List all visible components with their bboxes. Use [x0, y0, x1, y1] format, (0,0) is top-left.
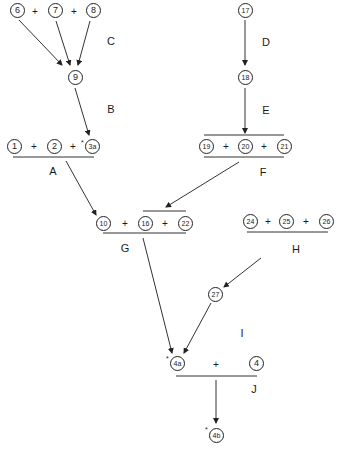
compound-21: 21	[277, 139, 292, 154]
compound-8: 8	[86, 3, 101, 18]
arrow-H-to-27	[224, 258, 261, 287]
compound-25: 25	[279, 214, 294, 229]
compound-26: 26	[319, 214, 334, 229]
compound-9: 9	[68, 70, 83, 85]
plus-sign: +	[265, 217, 271, 227]
step-label-B: B	[107, 104, 114, 115]
arrow-G-to-4a	[143, 238, 172, 353]
arrow-7-to-9	[56, 21, 70, 65]
plus-sign: +	[32, 7, 38, 17]
plus-sign: +	[70, 142, 76, 152]
compound-19: 19	[199, 139, 214, 154]
compound-16: 16	[138, 216, 153, 231]
compound-4a: 4a	[170, 356, 185, 371]
step-label-A: A	[49, 166, 56, 177]
compound-7: 7	[48, 3, 63, 18]
step-label-I: I	[240, 328, 243, 339]
arrow-8-to-9	[78, 21, 90, 65]
star-mark: *	[166, 355, 169, 362]
plus-sign: +	[261, 142, 267, 152]
compound-1: 1	[7, 139, 22, 154]
step-label-D: D	[262, 37, 270, 48]
arrow-A-to-10	[66, 161, 96, 215]
step-label-F: F	[260, 167, 267, 178]
plus-sign: +	[31, 142, 37, 152]
compound-18: 18	[238, 70, 253, 85]
arrow-27-to-4a	[184, 303, 211, 353]
compound-2: 2	[47, 139, 62, 154]
plus-sign: +	[162, 219, 168, 229]
compound-20: 20	[238, 139, 253, 154]
compound-3a: 3a	[85, 139, 100, 154]
compound-6: 6	[10, 3, 25, 18]
arrow-9-to-3a	[75, 88, 89, 135]
step-label-J: J	[251, 384, 257, 395]
star-mark: *	[81, 139, 84, 146]
step-label-H: H	[292, 244, 300, 255]
plus-sign: +	[303, 217, 309, 227]
step-label-E: E	[262, 105, 269, 116]
compound-22: 22	[178, 216, 193, 231]
step-label-G: G	[121, 243, 130, 254]
plus-sign: +	[122, 219, 128, 229]
plus-sign: +	[223, 142, 229, 152]
compound-10: 10	[96, 216, 111, 231]
step-label-C: C	[107, 36, 115, 47]
compound-27: 27	[208, 287, 223, 302]
arrow-F-to-16	[166, 162, 239, 207]
compound-24: 24	[243, 214, 258, 229]
plus-sign: +	[71, 7, 77, 17]
compound-4b: 4b	[209, 428, 224, 443]
arrow-6-to-9	[19, 20, 62, 65]
compound-4: 4	[249, 356, 264, 371]
plus-sign: +	[213, 360, 219, 370]
compound-17: 17	[238, 3, 253, 18]
star-mark: *	[205, 426, 208, 433]
